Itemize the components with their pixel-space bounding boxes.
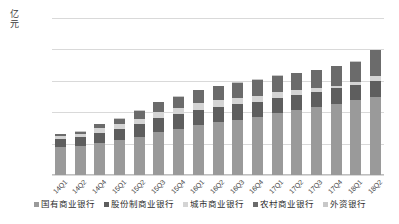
- bar-segment[interactable]: [252, 80, 263, 96]
- x-axis-label-slot: 17Q4: [331, 176, 342, 200]
- x-axis-label-slot: 17Q1: [272, 176, 283, 200]
- bar-column[interactable]: [55, 18, 66, 175]
- x-axis-tick-label: 17Q2: [288, 178, 304, 194]
- bar-segment[interactable]: [232, 120, 243, 175]
- bar-segment[interactable]: [311, 92, 322, 108]
- bar-column[interactable]: [350, 18, 361, 175]
- x-axis-tick-label: 17Q1: [268, 178, 284, 194]
- x-axis-label-slot: 17Q2: [291, 176, 302, 200]
- bar-segment[interactable]: [272, 113, 283, 175]
- bar-segment[interactable]: [311, 107, 322, 175]
- bar-segment[interactable]: [350, 100, 361, 175]
- bar-column[interactable]: [94, 18, 105, 175]
- bar-segment[interactable]: [55, 139, 66, 147]
- y-axis-unit-label: 亿 元: [7, 9, 21, 29]
- bar-column[interactable]: [114, 18, 125, 175]
- bar-segment[interactable]: [370, 97, 381, 175]
- bar-segment[interactable]: [193, 110, 204, 126]
- bar-segment[interactable]: [252, 117, 263, 175]
- bar-column[interactable]: [291, 18, 302, 175]
- bar-segment[interactable]: [213, 122, 224, 175]
- x-axis-label-slot: 16Q4: [252, 176, 263, 200]
- legend-label: 股份制商业银行: [111, 200, 174, 209]
- bar-segment[interactable]: [213, 107, 224, 123]
- bar-segment[interactable]: [134, 124, 145, 137]
- bar-column[interactable]: [193, 18, 204, 175]
- bar-column[interactable]: [272, 18, 283, 175]
- bar-column[interactable]: [331, 18, 342, 175]
- bar-segment[interactable]: [153, 118, 164, 132]
- bar-segment[interactable]: [134, 137, 145, 175]
- legend-swatch-icon: [253, 202, 258, 207]
- bar-segment[interactable]: [153, 102, 164, 112]
- bar-segment[interactable]: [331, 104, 342, 175]
- legend-item[interactable]: 农村商业银行: [253, 200, 314, 209]
- legend-item[interactable]: 城市商业银行: [183, 200, 244, 209]
- legend-label: 国有商业银行: [41, 200, 95, 209]
- bar-column[interactable]: [75, 18, 86, 175]
- x-axis-label-slot: 16Q1: [193, 176, 204, 200]
- bar-segment[interactable]: [311, 70, 322, 88]
- bar-segment[interactable]: [291, 73, 302, 90]
- chart-legend: 国有商业银行股份制商业银行城市商业银行农村商业银行外资银行: [0, 200, 399, 209]
- bar-segment[interactable]: [291, 110, 302, 175]
- bar-column[interactable]: [134, 18, 145, 175]
- bar-segment[interactable]: [173, 129, 184, 175]
- bar-segment[interactable]: [291, 95, 302, 111]
- bar-segment[interactable]: [75, 146, 86, 175]
- bar-segment[interactable]: [272, 98, 283, 114]
- bar-segment[interactable]: [193, 103, 204, 110]
- bar-segment[interactable]: [232, 83, 243, 98]
- x-axis-tick-label: 15Q3: [150, 178, 166, 194]
- legend-item[interactable]: 股份制商业银行: [104, 200, 174, 209]
- x-axis-label-slot: 18Q2: [370, 176, 381, 200]
- bar-segment[interactable]: [232, 104, 243, 119]
- x-axis-label-slot: 17Q3: [311, 176, 322, 200]
- x-axis-tick-label: 16Q2: [209, 178, 225, 194]
- bar-segment[interactable]: [331, 66, 342, 85]
- legend-item[interactable]: 国有商业银行: [34, 200, 95, 209]
- bar-segment[interactable]: [213, 100, 224, 107]
- bar-segment[interactable]: [153, 132, 164, 175]
- bar-segment[interactable]: [114, 129, 125, 140]
- x-axis-tick-label: 16Q3: [228, 178, 244, 194]
- bar-column[interactable]: [311, 18, 322, 175]
- bar-segment[interactable]: [173, 97, 184, 108]
- bar-segment[interactable]: [94, 133, 105, 143]
- bar-segment[interactable]: [173, 114, 184, 129]
- bar-segment[interactable]: [134, 111, 145, 119]
- bar-column[interactable]: [370, 18, 381, 175]
- bar-column[interactable]: [173, 18, 184, 175]
- x-axis-label-slot: 14Q1: [55, 176, 66, 200]
- bar-segment[interactable]: [55, 147, 66, 175]
- y-axis-unit-char-1: 亿: [7, 9, 21, 19]
- bar-column[interactable]: [232, 18, 243, 175]
- x-axis-tick-label: 14Q4: [91, 178, 107, 194]
- legend-label: 城市商业银行: [190, 200, 244, 209]
- bar-column[interactable]: [213, 18, 224, 175]
- bar-segment[interactable]: [350, 62, 361, 83]
- bar-segment[interactable]: [193, 125, 204, 175]
- bar-column[interactable]: [153, 18, 164, 175]
- bar-segment[interactable]: [331, 88, 342, 104]
- x-axis-label-slot: 14Q2: [75, 176, 86, 200]
- x-axis-label-slot: 15Q1: [114, 176, 125, 200]
- bar-segment[interactable]: [114, 140, 125, 175]
- x-axis-label-slot: 16Q2: [213, 176, 224, 200]
- x-axis-tick-label: 18Q2: [366, 178, 382, 194]
- bar-segment[interactable]: [370, 81, 381, 97]
- bar-segment[interactable]: [94, 143, 105, 175]
- bar-column[interactable]: [252, 18, 263, 175]
- x-axis-tick-label: 18Q1: [347, 178, 363, 194]
- bar-segment[interactable]: [272, 76, 283, 92]
- legend-swatch-icon: [323, 202, 328, 207]
- bar-segment[interactable]: [350, 85, 361, 101]
- bar-segment[interactable]: [370, 50, 381, 76]
- x-axis-tick-label: 16Q4: [248, 178, 264, 194]
- bar-segment[interactable]: [252, 102, 263, 117]
- bar-segment[interactable]: [75, 137, 86, 146]
- bar-segment[interactable]: [193, 90, 204, 103]
- bar-segment[interactable]: [232, 98, 243, 105]
- bar-segment[interactable]: [213, 86, 224, 100]
- legend-item[interactable]: 外资银行: [323, 200, 366, 209]
